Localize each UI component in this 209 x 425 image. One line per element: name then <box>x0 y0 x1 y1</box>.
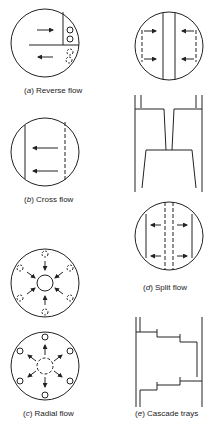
panel-d-split-flow-top <box>135 12 203 80</box>
panel-c-radial-flow-inward <box>11 249 79 317</box>
panel-c-radial-flow-outward <box>11 332 79 400</box>
panel-a-reverse-flow <box>11 9 79 77</box>
panel-b-cross-flow <box>11 118 79 186</box>
caption-c: (c) Radial flow <box>23 409 74 418</box>
caption-e-text: Cascade trays <box>147 409 198 418</box>
caption-b-letter: b <box>27 195 31 204</box>
caption-e: (e) Cascade trays <box>135 409 198 418</box>
caption-b-text: Cross flow <box>36 195 73 204</box>
caption-c-letter: c <box>26 409 30 418</box>
tray-flow-diagram <box>0 0 209 425</box>
caption-a-text: Reverse flow <box>36 86 82 95</box>
caption-a-letter: a <box>27 86 31 95</box>
caption-a: (a) Reverse flow <box>24 86 82 95</box>
caption-d-text: Split flow <box>155 283 187 292</box>
panel-d-split-flow-elevation <box>135 95 202 192</box>
caption-d: (d) Split flow <box>143 283 187 292</box>
panel-d-split-flow-bottom <box>135 202 203 270</box>
caption-c-text: Radial flow <box>35 409 74 418</box>
caption-e-letter: e <box>138 409 142 418</box>
caption-d-letter: d <box>146 283 150 292</box>
caption-b: (b) Cross flow <box>24 195 73 204</box>
panel-e-cascade-trays <box>136 317 202 407</box>
